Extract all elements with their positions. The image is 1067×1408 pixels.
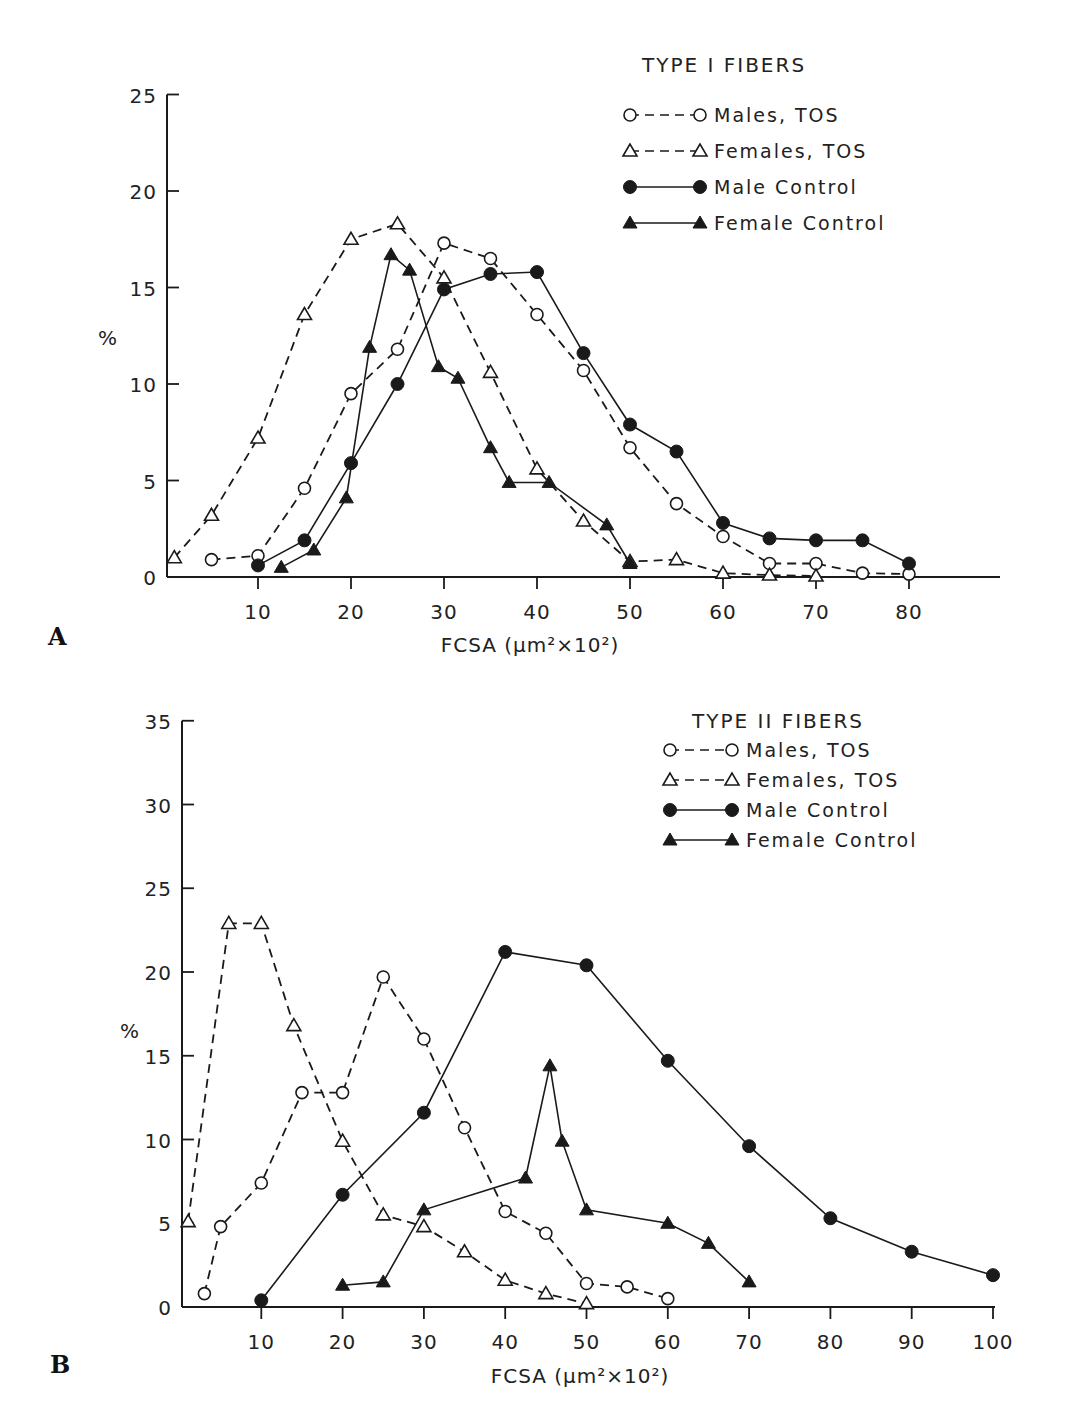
x-tick-label: 80 — [817, 1330, 844, 1354]
open-circle-marker — [621, 1281, 633, 1293]
y-tick-label: 0 — [143, 566, 157, 590]
open-triangle-marker — [181, 1215, 195, 1227]
open-circle-marker — [392, 343, 404, 355]
filled-circle-marker — [856, 534, 869, 547]
filled-triangle-marker — [384, 248, 398, 260]
y-tick-label: 10 — [130, 373, 157, 397]
filled-triangle-marker — [701, 1236, 715, 1248]
x-tick-label: 50 — [616, 600, 643, 624]
x-tick-label: 10 — [248, 1330, 275, 1354]
x-tick-label: 40 — [491, 1330, 518, 1354]
open-circle-marker — [438, 237, 450, 249]
open-triangle-marker — [809, 569, 823, 581]
filled-circle-marker — [252, 559, 265, 572]
x-tick-label: 80 — [895, 600, 922, 624]
x-tick-label: 10 — [244, 600, 271, 624]
open-triangle-marker — [458, 1245, 472, 1257]
open-circle-marker — [694, 109, 706, 121]
open-triangle-marker — [670, 553, 684, 565]
legend-label: Female Control — [714, 212, 885, 234]
open-circle-marker — [459, 1122, 471, 1134]
open-triangle-marker — [693, 144, 707, 156]
filled-circle-marker — [531, 266, 544, 279]
y-tick-label: 20 — [130, 180, 157, 204]
legend-label: Female Control — [746, 829, 917, 851]
filled-circle-marker — [580, 959, 593, 972]
y-tick-label: 0 — [158, 1296, 172, 1320]
open-circle-marker — [581, 1278, 593, 1290]
open-triangle-marker — [391, 217, 405, 229]
y-tick-label: 25 — [145, 877, 172, 901]
open-circle-marker — [377, 971, 389, 983]
filled-circle-marker — [905, 1245, 918, 1258]
open-triangle-marker — [623, 144, 637, 156]
open-triangle-marker — [344, 232, 358, 244]
open-circle-marker — [624, 109, 636, 121]
series-line — [343, 1066, 749, 1285]
x-tick-label: 90 — [898, 1330, 925, 1354]
open-circle-marker — [418, 1033, 430, 1045]
open-triangle-marker — [498, 1273, 512, 1285]
x-tick-label: 70 — [802, 600, 829, 624]
x-tick-label: 70 — [735, 1330, 762, 1354]
open-circle-marker — [531, 309, 543, 321]
x-tick-label: 30 — [410, 1330, 437, 1354]
y-tick-label: 35 — [145, 710, 172, 734]
series-female-control — [336, 1059, 756, 1290]
x-tick-label: 20 — [337, 600, 364, 624]
filled-circle-marker — [577, 347, 590, 360]
filled-triangle-marker — [663, 833, 677, 845]
legend-label: Females, TOS — [714, 140, 867, 162]
figure-canvas: 05101520251020304050607080%FCSA (μm²×10²… — [0, 0, 1067, 1408]
legend: TYPE I FIBERSMales, TOSFemales, TOSMale … — [623, 53, 885, 234]
open-circle-marker — [662, 1293, 674, 1305]
filled-triangle-marker — [339, 491, 353, 503]
series-line — [204, 977, 667, 1299]
filled-circle-marker — [726, 804, 739, 817]
filled-triangle-marker — [555, 1134, 569, 1146]
series-line — [261, 952, 993, 1300]
filled-triangle-marker — [403, 263, 417, 275]
open-triangle-marker — [663, 773, 677, 785]
y-tick-label: 25 — [130, 84, 157, 108]
filled-circle-marker — [664, 804, 677, 817]
y-tick-label: 5 — [143, 470, 157, 494]
filled-circle-marker — [298, 534, 311, 547]
filled-circle-marker — [810, 534, 823, 547]
filled-circle-marker — [255, 1294, 268, 1307]
series-line — [212, 243, 910, 574]
filled-triangle-marker — [600, 518, 614, 530]
filled-triangle-marker — [431, 360, 445, 372]
filled-circle-marker — [417, 1106, 430, 1119]
open-triangle-marker — [417, 1220, 431, 1232]
filled-triangle-marker — [693, 216, 707, 228]
filled-triangle-marker — [623, 216, 637, 228]
open-triangle-marker — [251, 431, 265, 443]
open-triangle-marker — [580, 1297, 594, 1309]
open-triangle-marker — [254, 916, 268, 928]
open-circle-marker — [206, 554, 218, 566]
legend-label: Male Control — [714, 176, 858, 198]
open-circle-marker — [717, 530, 729, 542]
x-tick-label: 20 — [329, 1330, 356, 1354]
filled-circle-marker — [438, 283, 451, 296]
legend-label: Females, TOS — [746, 769, 899, 791]
open-triangle-marker — [530, 462, 544, 474]
filled-triangle-marker — [376, 1275, 390, 1287]
legend-label: Male Control — [746, 799, 890, 821]
series-males-tos — [198, 971, 673, 1305]
chart-type-ii-fibers: 05101520253035102030405060708090100%FCSA… — [120, 709, 1014, 1388]
open-circle-marker — [296, 1087, 308, 1099]
y-tick-label: 10 — [145, 1129, 172, 1153]
x-axis-label: FCSA (μm²×10²) — [441, 633, 620, 657]
open-triangle-marker — [376, 1208, 390, 1220]
open-triangle-marker — [298, 308, 312, 320]
y-tick-label: 15 — [145, 1045, 172, 1069]
open-circle-marker — [337, 1087, 349, 1099]
open-circle-marker — [255, 1177, 267, 1189]
filled-circle-marker — [824, 1212, 837, 1225]
filled-triangle-marker — [502, 475, 516, 487]
x-tick-label: 60 — [654, 1330, 681, 1354]
open-circle-marker — [499, 1206, 511, 1218]
filled-triangle-marker — [363, 340, 377, 352]
